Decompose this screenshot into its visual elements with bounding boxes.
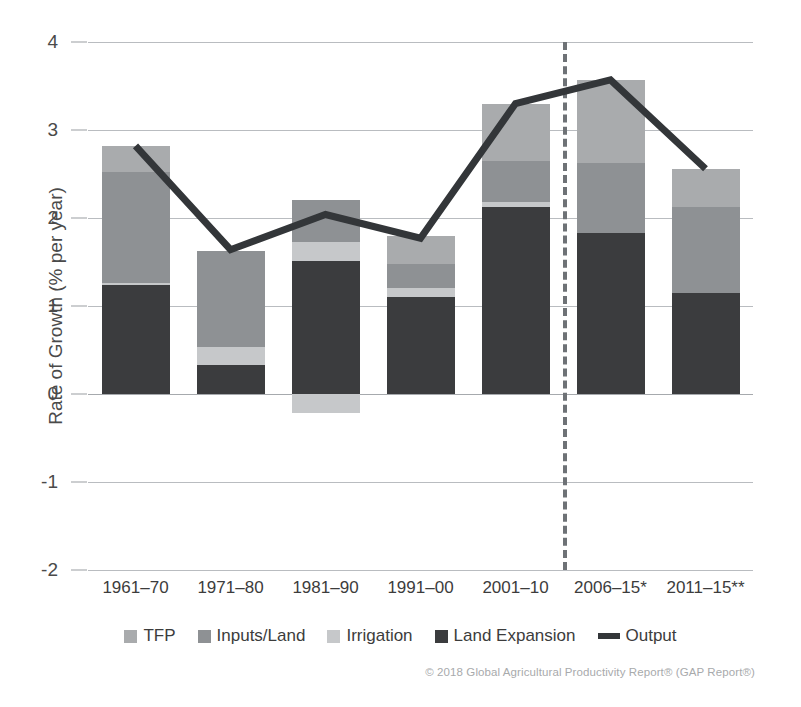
- y-tick-mark: [71, 306, 87, 307]
- legend-swatch-icon: [198, 630, 211, 643]
- plot-area: Rate of Growth (% per year) 43210-1-2: [88, 42, 753, 570]
- y-tick-label: -2: [18, 559, 58, 581]
- y-tick-label: 3: [18, 119, 58, 141]
- y-tick-label: 1: [18, 295, 58, 317]
- x-tick-label: 2011–15**: [666, 578, 744, 598]
- y-tick-label: 0: [18, 383, 58, 405]
- legend-label: Inputs/Land: [217, 626, 306, 646]
- y-tick-mark: [71, 130, 87, 131]
- legend-item[interactable]: Inputs/Land: [198, 626, 306, 646]
- legend-item[interactable]: Land Expansion: [435, 626, 576, 646]
- output-line: [136, 80, 706, 250]
- y-tick-label: 4: [18, 31, 58, 53]
- x-tick-label: 1961–70: [102, 578, 168, 598]
- legend-item[interactable]: TFP: [124, 626, 175, 646]
- chart-legend: TFPInputs/LandIrrigationLand ExpansionOu…: [0, 626, 801, 646]
- legend-swatch-icon: [124, 630, 137, 643]
- y-tick-label: 2: [18, 207, 58, 229]
- legend-label: Land Expansion: [454, 626, 576, 646]
- gridline--2: [88, 570, 753, 571]
- x-tick-label: 2001–10: [482, 578, 548, 598]
- legend-label: TFP: [143, 626, 175, 646]
- x-tick-label: 2006–15*: [574, 578, 647, 598]
- chart-figure: Rate of Growth (% per year) 43210-1-2 19…: [0, 0, 801, 707]
- y-tick-mark: [71, 482, 87, 483]
- y-tick-label: -1: [18, 471, 58, 493]
- legend-item[interactable]: Irrigation: [327, 626, 412, 646]
- legend-label: Output: [626, 626, 677, 646]
- x-tick-label: 1991–00: [387, 578, 453, 598]
- legend-swatch-icon: [327, 630, 340, 643]
- legend-label: Irrigation: [346, 626, 412, 646]
- copyright-credit: © 2018 Global Agricultural Productivity …: [425, 666, 755, 678]
- y-tick-mark: [71, 394, 87, 395]
- output-line-layer: [88, 42, 753, 570]
- legend-swatch-icon: [598, 633, 620, 639]
- y-tick-mark: [71, 570, 87, 571]
- x-tick-label: 1981–90: [292, 578, 358, 598]
- legend-swatch-icon: [435, 630, 448, 643]
- x-tick-label: 1971–80: [197, 578, 263, 598]
- y-tick-mark: [71, 42, 87, 43]
- y-tick-mark: [71, 218, 87, 219]
- legend-item[interactable]: Output: [598, 626, 677, 646]
